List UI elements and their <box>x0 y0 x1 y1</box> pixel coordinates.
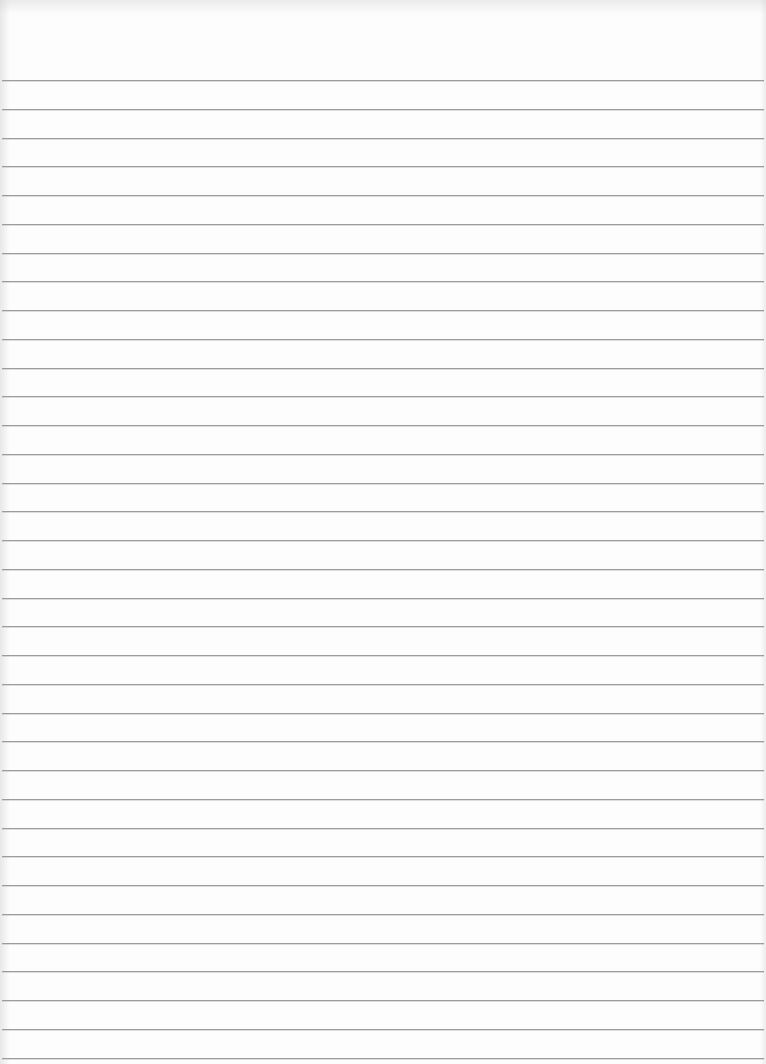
ruled-line <box>2 770 764 771</box>
ruled-line <box>2 971 764 972</box>
ruled-line <box>2 166 764 167</box>
ruled-paper-sheet <box>0 0 766 1064</box>
ruled-line <box>2 1029 764 1030</box>
ruled-line <box>2 109 764 110</box>
ruled-line <box>2 483 764 484</box>
ruled-line <box>2 741 764 742</box>
ruled-line <box>2 598 764 599</box>
right-edge-shading <box>760 0 766 1064</box>
ruled-line <box>2 885 764 886</box>
ruled-line <box>2 684 764 685</box>
ruled-line <box>2 799 764 800</box>
ruled-line <box>2 368 764 369</box>
ruled-line <box>2 425 764 426</box>
ruled-line <box>2 396 764 397</box>
ruled-line <box>2 856 764 857</box>
ruled-line <box>2 1058 764 1059</box>
ruled-line <box>2 454 764 455</box>
ruled-line <box>2 713 764 714</box>
ruled-line <box>2 253 764 254</box>
ruled-line <box>2 626 764 627</box>
ruled-line <box>2 224 764 225</box>
ruled-line <box>2 914 764 915</box>
ruled-line <box>2 310 764 311</box>
ruled-line <box>2 138 764 139</box>
ruled-line <box>2 339 764 340</box>
left-edge-shading <box>0 0 10 1064</box>
ruled-line <box>2 569 764 570</box>
ruled-line <box>2 655 764 656</box>
ruled-line <box>2 943 764 944</box>
ruled-line <box>2 540 764 541</box>
ruled-line <box>2 1000 764 1001</box>
top-edge-shading <box>0 0 766 14</box>
ruled-line <box>2 281 764 282</box>
ruled-line <box>2 80 764 81</box>
ruled-line <box>2 828 764 829</box>
ruled-line <box>2 195 764 196</box>
ruled-line <box>2 511 764 512</box>
